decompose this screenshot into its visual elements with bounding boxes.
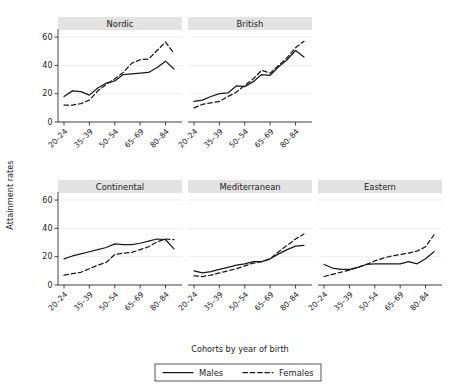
y-tick-label-40: 40 [42,61,52,70]
panel-title-mediterranean: Mediterranean [219,182,280,192]
y-tick-label-20: 20 [42,89,52,98]
x-tick-label-35-39: 35–39 [332,290,355,313]
y-axis-title: Attainment rates [5,160,15,229]
x-tick-label-35-39: 35–39 [202,127,225,150]
x-tick-label-50-54: 50–54 [97,127,120,150]
x-tick-label-35-39: 35–39 [202,290,225,313]
x-tick-label-65-69: 65–69 [253,290,276,313]
x-tick-label-35-39: 35–39 [72,127,95,150]
x-tick-label-20-24: 20–24 [47,127,70,150]
series-males-continental [64,239,174,259]
x-tick-label-20-24: 20–24 [47,290,70,313]
x-tick-label-20-24: 20–24 [177,290,200,313]
x-tick-label-35-39: 35–39 [72,290,95,313]
series-males-nordic [64,61,174,96]
x-tick-label-50-54: 50–54 [357,290,380,313]
y-tick-label-0: 0 [47,281,52,290]
x-tick-label-80-84: 80–84 [408,290,431,313]
x-tick-label-20-24: 20–24 [177,127,200,150]
series-females-mediterranean [194,234,304,276]
x-tick-label-50-54: 50–54 [97,290,120,313]
x-tick-label-65-69: 65–69 [383,290,406,313]
panel-title-nordic: Nordic [107,19,134,29]
y-tick-label-20: 20 [42,252,52,261]
series-males-mediterranean [194,245,304,273]
series-females-eastern [324,235,434,277]
x-tick-label-65-69: 65–69 [253,127,276,150]
x-tick-label-65-69: 65–69 [123,290,146,313]
x-axis-title: Cohorts by year of birth [191,344,289,354]
x-tick-label-50-54: 50–54 [227,290,250,313]
y-tick-label-60: 60 [42,33,52,42]
panel-title-continental: Continental [96,182,144,192]
x-tick-label-80-84: 80–84 [148,127,171,150]
y-tick-label-40: 40 [42,224,52,233]
panel-title-british: British [237,19,264,29]
y-tick-label-0: 0 [47,118,52,127]
attainment-rates-chart: Nordic020406020–2435–3950–5465–6980–84Br… [0,0,457,390]
panel-title-eastern: Eastern [364,182,396,192]
y-tick-label-60: 60 [42,196,52,205]
x-tick-label-80-84: 80–84 [278,127,301,150]
series-females-nordic [64,42,174,105]
series-males-eastern [324,252,434,270]
legend-label-males: Males [199,368,223,378]
chart-canvas: Nordic020406020–2435–3950–5465–6980–84Br… [0,0,457,390]
series-females-british [194,41,304,108]
x-tick-label-20-24: 20–24 [307,290,330,313]
x-tick-label-80-84: 80–84 [148,290,171,313]
x-tick-label-65-69: 65–69 [123,127,146,150]
x-tick-label-50-54: 50–54 [227,127,250,150]
legend-label-females: Females [279,368,314,378]
x-tick-label-80-84: 80–84 [278,290,301,313]
